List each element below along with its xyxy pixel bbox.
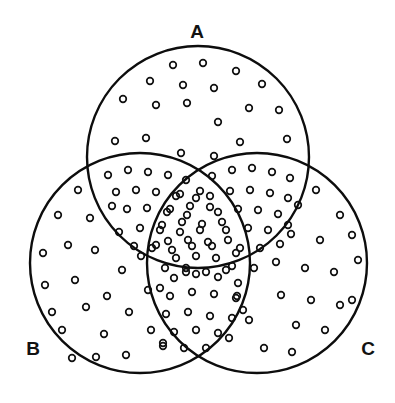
- set-label-a: A: [190, 21, 204, 42]
- venn-diagram-canvas: A B C: [0, 0, 395, 403]
- venn-diagram-figure: A B C: [0, 0, 395, 403]
- set-label-b: B: [26, 338, 40, 359]
- set-label-c: C: [361, 338, 375, 359]
